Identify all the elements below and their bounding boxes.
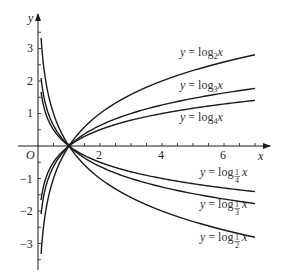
y-tick-label-3: 3 — [27, 41, 33, 55]
svg-text:3: 3 — [235, 208, 239, 217]
x-tick-label-4: 4 — [158, 148, 164, 162]
curve-label-log1-3: y = log 1 3 x — [199, 197, 248, 217]
y-tick-label-1: 1 — [27, 106, 33, 120]
svg-text:x: x — [241, 165, 248, 179]
svg-text:y = log: y = log — [199, 230, 233, 244]
curve-label-log3: y = log3x — [179, 78, 223, 94]
svg-text:x: x — [241, 197, 248, 211]
svg-text:y = log3x: y = log3x — [179, 78, 223, 94]
y-tick-label-neg3: −3 — [20, 237, 33, 251]
svg-text:y = log4x: y = log4x — [179, 110, 223, 126]
y-tick-label-2: 2 — [27, 74, 33, 88]
log-function-graph: x y O 2 4 6 3 2 1 −1 −2 −3 y = log2x y =… — [0, 0, 284, 280]
y-tick-label-neg2: −2 — [20, 204, 33, 218]
svg-text:x: x — [241, 230, 248, 244]
y-tick-label-neg1: −1 — [20, 172, 33, 186]
x-tick-label-2: 2 — [96, 148, 102, 162]
svg-text:y = log: y = log — [199, 197, 233, 211]
svg-text:4: 4 — [235, 176, 239, 185]
origin-label: O — [26, 148, 35, 162]
svg-text:y = log: y = log — [199, 165, 233, 179]
x-tick-label-6: 6 — [220, 148, 226, 162]
curve-label-log1-2: y = log 1 2 x — [199, 230, 248, 250]
y-axis-label: y — [27, 11, 34, 25]
curve-label-log2: y = log2x — [179, 45, 223, 61]
x-axis-label: x — [257, 149, 264, 163]
curve-label-log1-4: y = log 1 4 x — [199, 165, 248, 185]
curve-label-log4: y = log4x — [179, 110, 223, 126]
svg-text:y = log2x: y = log2x — [179, 45, 223, 61]
svg-text:2: 2 — [235, 241, 239, 250]
